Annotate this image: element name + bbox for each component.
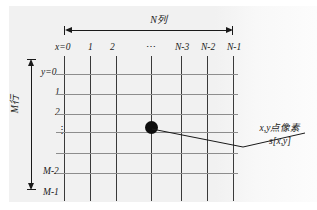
grid-row-line-1 xyxy=(56,94,238,95)
x-label-ellipsis: ⋯ xyxy=(146,43,157,53)
x-label-n3: N-3 xyxy=(175,43,189,53)
grid-column-line-1 xyxy=(90,56,91,201)
pixel-dot-marker xyxy=(145,121,158,134)
x-label-n2: N-2 xyxy=(201,43,215,53)
dimension-left-line xyxy=(31,62,32,188)
grid-column-line-2 xyxy=(116,56,117,201)
dimension-left-tick-bottom xyxy=(27,189,36,190)
y-label-0: y=0 xyxy=(41,68,56,78)
figure-canvas: N列 M行 x=0 1 2 ⋯ N-3 N-2 N-1 y=0 1 2 ⋮ M-… xyxy=(0,0,317,210)
y-label-m2: M-2 xyxy=(43,167,59,177)
dimension-top-tick-start xyxy=(64,26,65,35)
x-label-n1: N-1 xyxy=(227,43,241,53)
pixel-callout: x,y点像素 s[x,y] xyxy=(247,122,313,148)
dimension-top-line xyxy=(67,30,231,31)
grid-column-line-0 xyxy=(64,56,65,201)
dimension-top-arrow-left xyxy=(65,27,72,33)
y-label-m1: M-1 xyxy=(43,188,59,198)
y-label-1: 1 xyxy=(55,88,60,98)
dimension-left-tick-top xyxy=(27,59,36,60)
x-label-0: x=0 xyxy=(55,43,70,53)
dimension-top-label: N列 xyxy=(0,11,317,26)
grid-row-line-0 xyxy=(56,74,238,75)
grid-row-line-2 xyxy=(56,114,238,115)
x-label-1: 1 xyxy=(88,43,93,53)
grid-column-line-4 xyxy=(181,56,182,201)
dimension-top-tick-end xyxy=(232,26,233,35)
callout-line-1: x,y点像素 xyxy=(247,122,313,135)
y-label-2: 2 xyxy=(55,108,60,118)
grid-column-line-5 xyxy=(207,56,208,201)
grid-row-line-4 xyxy=(56,153,238,154)
callout-line-2: s[x,y] xyxy=(247,135,313,148)
y-label-ellipsis: ⋮ xyxy=(57,126,67,136)
dimension-left-label: M行 xyxy=(6,95,21,113)
x-label-2: 2 xyxy=(110,43,115,53)
dimension-left-arrow-top xyxy=(28,59,34,66)
grid-row-line-5 xyxy=(56,173,238,174)
grid-column-line-6 xyxy=(233,56,234,201)
